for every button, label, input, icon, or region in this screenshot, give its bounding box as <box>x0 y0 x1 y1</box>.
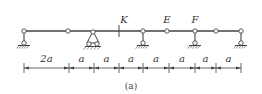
figure-caption: (a) <box>125 81 137 91</box>
supports <box>17 25 248 50</box>
link-bottom-hinge-icon <box>239 41 243 45</box>
support-top-hinge-icon <box>91 30 95 34</box>
hinge-icon <box>214 29 218 33</box>
dim-arrow-right-icon <box>138 66 143 69</box>
hinge-1-node <box>66 29 70 33</box>
link-top-hinge-icon <box>22 29 26 33</box>
point-label-F: F <box>191 14 200 25</box>
point-labels: KEF <box>119 14 199 25</box>
right-support-node <box>234 29 248 49</box>
link-top-hinge-icon <box>141 29 145 33</box>
dim-label: a <box>226 53 232 64</box>
link-bottom-hinge-icon <box>193 41 197 45</box>
dim-arrow-right-icon <box>114 66 119 69</box>
link-top-hinge-icon <box>239 29 243 33</box>
support-2-node <box>136 29 150 49</box>
dim-arrow-left-icon <box>119 66 124 69</box>
dim-arrow-right-icon <box>190 66 195 69</box>
left-support-node <box>17 29 31 49</box>
dim-label: a <box>79 53 85 64</box>
dim-label: a <box>153 53 159 64</box>
link-top-hinge-icon <box>193 29 197 33</box>
dim-label: a <box>179 53 185 64</box>
dim-arrow-left-icon <box>94 66 99 69</box>
dimension-line: 2aaaaaaaa <box>24 53 241 73</box>
hinge-icon <box>66 29 70 33</box>
link-bottom-hinge-icon <box>141 41 145 45</box>
dim-arrow-left-icon <box>195 66 200 69</box>
hinge-icon <box>165 29 169 33</box>
point-label-E: E <box>162 14 171 25</box>
F-node <box>188 29 202 49</box>
ground-hatch <box>234 46 237 49</box>
dim-arrow-left-icon <box>69 66 74 69</box>
dim-arrow-left-icon <box>216 66 221 69</box>
pin-support-triangle-node <box>84 30 102 50</box>
dim-label: 2a <box>39 53 52 64</box>
dim-label: a <box>128 53 134 64</box>
dim-label: a <box>203 53 209 64</box>
beam-diagram: KEF 2aaaaaaaa (a) <box>0 0 262 94</box>
dim-arrow-left-icon <box>169 66 174 69</box>
dim-arrow-right-icon <box>236 66 241 69</box>
dim-arrow-left-icon <box>143 66 148 69</box>
support-left-pin-icon <box>87 42 91 46</box>
point-label-K: K <box>119 14 128 25</box>
dim-arrow-right-icon <box>64 66 69 69</box>
dim-arrow-left-icon <box>24 66 29 69</box>
link-bottom-hinge-icon <box>22 41 26 45</box>
dim-label: a <box>104 53 110 64</box>
hinge-3-node <box>214 29 218 33</box>
dim-arrow-right-icon <box>89 66 94 69</box>
ground-hatch <box>17 46 20 49</box>
ground-hatch <box>84 47 87 50</box>
dim-arrow-right-icon <box>211 66 216 69</box>
ground-hatch <box>188 46 191 49</box>
ground-hatch <box>136 46 139 49</box>
support-right-pin-icon <box>95 42 99 46</box>
dim-arrow-right-icon <box>164 66 169 69</box>
E-node <box>165 29 169 33</box>
